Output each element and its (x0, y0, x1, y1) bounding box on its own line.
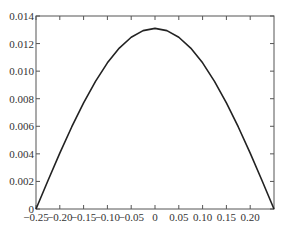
x-tick-label: 0.15 (217, 211, 237, 223)
x-tick-label: −0.15 (71, 211, 97, 223)
axes-frame (36, 16, 274, 209)
y-tick-label: 0.002 (9, 175, 34, 187)
y-tick-label: 0.004 (9, 148, 34, 160)
chart: 00.0020.0040.0060.0080.0100.0120.014 −0.… (0, 0, 286, 235)
y-tick-label: 0.010 (9, 65, 34, 77)
y-tick-label: 0.006 (9, 120, 34, 132)
x-axis-tick-labels: −0.25−0.20−0.15−0.10−0.0500.050.100.150.… (23, 211, 260, 223)
x-tick-label: −0.20 (47, 211, 73, 223)
series-line-curve (36, 28, 274, 209)
x-tick-label: −0.10 (95, 211, 121, 223)
y-tick-label: 0.012 (9, 38, 34, 50)
x-tick-label: 0 (152, 211, 158, 223)
y-tick-label: 0.014 (9, 10, 34, 22)
axis-ticks (36, 16, 274, 209)
y-tick-label: 0.008 (9, 93, 34, 105)
x-tick-label: 0.05 (169, 211, 189, 223)
x-tick-label: −0.25 (23, 211, 49, 223)
x-tick-label: 0.20 (241, 211, 261, 223)
plot-series (36, 28, 274, 209)
line-chart: 00.0020.0040.0060.0080.0100.0120.014 −0.… (0, 0, 286, 235)
x-tick-label: 0.10 (193, 211, 213, 223)
y-axis-tick-labels: 00.0020.0040.0060.0080.0100.0120.014 (9, 10, 34, 215)
plot-border (36, 16, 274, 209)
x-tick-label: −0.05 (118, 211, 144, 223)
